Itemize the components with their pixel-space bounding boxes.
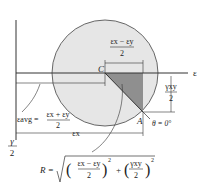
formula-lhs: R = xyxy=(39,165,54,175)
svg-text:εx − εy: εx − εy xyxy=(77,159,100,168)
svg-text:2: 2 xyxy=(169,94,173,103)
svg-text:εx + εy: εx + εy xyxy=(46,110,69,119)
svg-text:2: 2 xyxy=(134,171,138,180)
svg-text:): ) xyxy=(145,161,150,179)
point-a-label: A xyxy=(136,116,143,126)
mohrs-circle-diagram: εx − εy 2 C ε γxy 2 A θ = 0° εavg = εx +… xyxy=(0,0,206,189)
svg-text:2: 2 xyxy=(56,121,60,130)
svg-text:(: ( xyxy=(66,161,71,179)
svg-text:2: 2 xyxy=(87,171,91,180)
svg-text:): ) xyxy=(102,161,107,179)
svg-text:γxy: γxy xyxy=(129,159,142,168)
svg-text:+: + xyxy=(116,165,121,175)
center-label: C xyxy=(98,64,105,74)
svg-text:2: 2 xyxy=(151,157,154,163)
avg-leader xyxy=(22,84,40,112)
svg-text:2: 2 xyxy=(120,49,124,58)
svg-text:2: 2 xyxy=(10,148,15,158)
gamma-numerator: γxy xyxy=(164,82,177,91)
avg-lhs: εavg = xyxy=(17,115,39,124)
theta-leader xyxy=(143,112,150,119)
theta-label: θ = 0° xyxy=(152,119,171,128)
svg-text:(: ( xyxy=(124,161,129,179)
gamma-axis-num: γ xyxy=(10,136,14,146)
epsilon-axis-label: ε xyxy=(193,68,197,78)
svg-text:2: 2 xyxy=(108,157,111,163)
ex-label: εx xyxy=(72,129,79,138)
half-diff-numerator: εx − εy xyxy=(110,37,133,46)
